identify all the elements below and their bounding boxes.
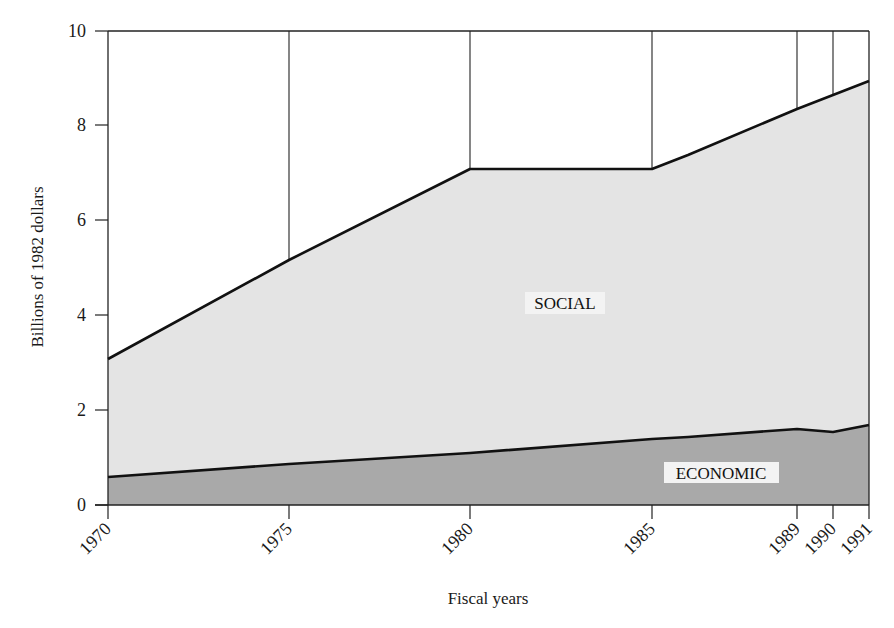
y-tick-label: 2 — [77, 400, 86, 420]
chart-canvas: 0 2 4 6 8 10 1970 1975 1980 1985 1989 19… — [0, 0, 894, 628]
x-tick-label: 1989 — [764, 519, 804, 559]
x-tick-label: 1980 — [437, 519, 477, 559]
y-tick-label: 6 — [77, 210, 86, 230]
x-axis-title: Fiscal years — [448, 589, 529, 608]
y-tick-label: 4 — [77, 305, 86, 325]
y-tick-label: 0 — [77, 495, 86, 515]
y-axis — [95, 31, 108, 505]
x-tick-label: 1985 — [619, 519, 659, 559]
y-tick-label: 8 — [77, 115, 86, 135]
x-tick-label: 1970 — [75, 519, 115, 559]
x-tick-label: 1990 — [800, 519, 840, 559]
y-tick-label: 10 — [68, 21, 86, 41]
social-label: SOCIAL — [534, 294, 595, 313]
x-tick-label: 1975 — [256, 519, 296, 559]
x-axis-ticks — [108, 505, 869, 519]
economic-label: ECONOMIC — [676, 464, 767, 483]
y-axis-title: Billions of 1982 dollars — [28, 186, 47, 347]
x-tick-label: 1991 — [836, 519, 876, 559]
